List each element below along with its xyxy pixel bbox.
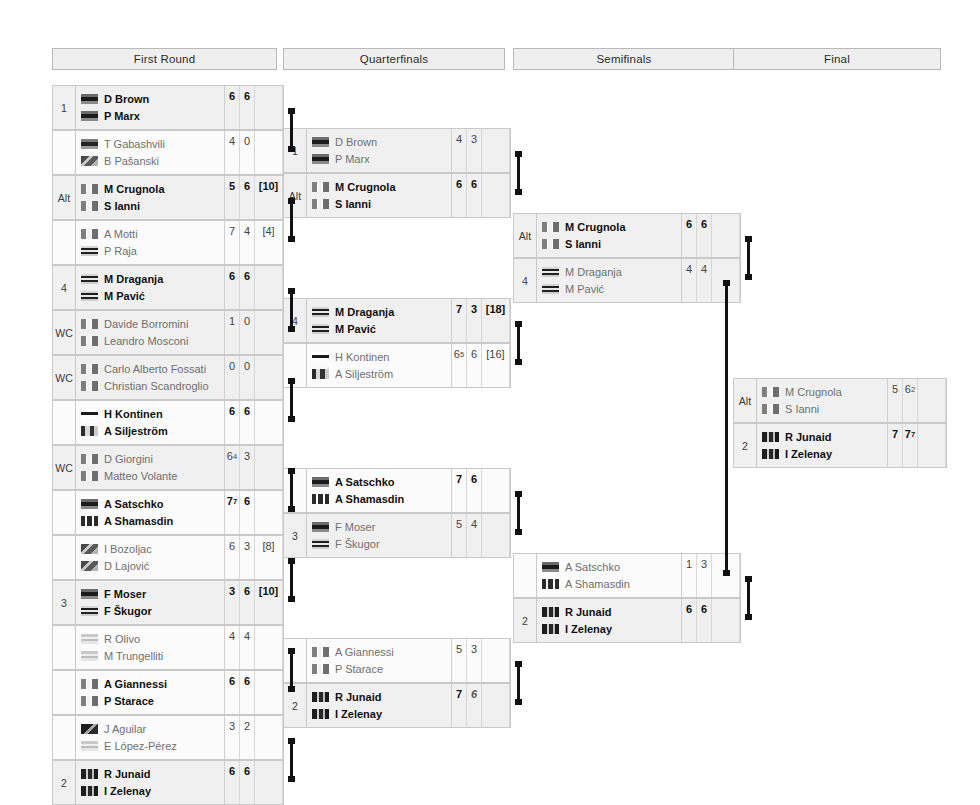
score-spacer <box>482 366 509 388</box>
flag-icon-flag-bars <box>542 267 559 277</box>
score-column-1: 4 <box>225 131 240 174</box>
match-r1-14[interactable]: A GiannessiP Starace66 <box>52 670 284 715</box>
score-column-2: 4 <box>240 626 255 669</box>
seed-label <box>53 491 76 534</box>
player-name: S Ianni <box>104 198 140 215</box>
score-column-2: 6 <box>467 174 482 217</box>
score-value: 77 <box>225 491 239 513</box>
score-value <box>255 671 282 693</box>
match-r1-5[interactable]: 4M DraganjaM Pavić66 <box>52 265 284 310</box>
score-column-3: [10] <box>255 176 283 219</box>
score-column-1: 6 <box>225 536 240 579</box>
player-row: M Crugnola <box>762 384 887 401</box>
match-sf-3[interactable]: A SatschkoA Shamasdin13 <box>513 553 741 598</box>
score-value: 6 <box>225 266 239 288</box>
connector-r1-1-cap-top <box>288 108 295 114</box>
match-sf-1[interactable]: AltM CrugnolaS Ianni66 <box>513 213 741 258</box>
player-name: P Raja <box>104 243 137 260</box>
score-spacer <box>255 333 282 355</box>
score-cells: 66 <box>451 174 510 217</box>
match-r1-2[interactable]: T GabashviliB Pašanski40 <box>52 130 284 175</box>
match-r1-13[interactable]: R OlivoM Trungelliti44 <box>52 625 284 670</box>
match-qf-4[interactable]: H KontinenA Siljeström656[16] <box>283 343 511 388</box>
player-name: M Pavić <box>565 281 604 298</box>
score-spacer <box>467 536 481 558</box>
seed-label <box>53 221 76 264</box>
score-value <box>482 469 509 491</box>
match-qf-5[interactable]: A SatschkoA Shamasdin76 <box>283 468 511 513</box>
player-name: M Crugnola <box>104 181 165 198</box>
player-name: I Zelenay <box>785 446 832 463</box>
connector-r1-5-cap-top <box>288 468 295 474</box>
score-column-3 <box>482 514 510 557</box>
player-row: P Marx <box>312 151 451 168</box>
score-cells: 66 <box>224 671 283 714</box>
flag-icon-flag-stripes <box>81 381 98 391</box>
match-r1-10[interactable]: A SatschkoA Shamasdin776 <box>52 490 284 535</box>
player-row: R Junaid <box>312 689 451 706</box>
match-r1-15[interactable]: J AguilarE López-Pérez32 <box>52 715 284 760</box>
score-column-2: 6 <box>697 599 712 642</box>
match-r1-16[interactable]: 2R JunaidI Zelenay66 <box>52 760 284 805</box>
seed-label: 2 <box>734 424 757 467</box>
score-spacer <box>240 198 254 220</box>
player-row: Christian Scandroglio <box>81 378 224 395</box>
score-spacer <box>452 661 466 683</box>
team-names: A SatschkoA Shamasdin <box>537 554 681 597</box>
match-qf-6[interactable]: 3F MoserF Škugor54 <box>283 513 511 558</box>
player-row: Davide Borromini <box>81 316 224 333</box>
match-qf-8[interactable]: 2R JunaidI Zelenay76 <box>283 683 511 728</box>
match-r1-6[interactable]: WCDavide BorrominiLeandro Mosconi10 <box>52 310 284 355</box>
team-names: A MottiP Raja <box>76 221 224 264</box>
round-header-label: Semifinals <box>596 53 651 65</box>
match-r1-12[interactable]: 3F MoserF Škugor36[10] <box>52 580 284 625</box>
match-fn-2[interactable]: 2R JunaidI Zelenay777 <box>733 423 947 468</box>
score-column-1: 4 <box>682 259 697 302</box>
match-r1-9[interactable]: WCD GiorginiMatteo Volante643 <box>52 445 284 490</box>
score-spacer <box>255 783 282 805</box>
score-value: 4 <box>240 221 254 243</box>
match-qf-7[interactable]: A GiannessiP Starace53 <box>283 638 511 683</box>
connector-r1-8-cap-top <box>288 738 295 744</box>
player-row: T Gabashvili <box>81 136 224 153</box>
score-column-1: 6 <box>225 761 240 804</box>
match-r1-8[interactable]: H KontinenA Siljeström66 <box>52 400 284 445</box>
score-spacer <box>255 558 282 580</box>
score-column-1: 7 <box>452 684 467 727</box>
connector-r1-1-cap-bottom <box>288 146 295 152</box>
seed-label: 2 <box>514 599 537 642</box>
score-value: 6 <box>452 174 466 196</box>
match-r1-3[interactable]: AltM CrugnolaS Ianni56[10] <box>52 175 284 220</box>
player-row: D Brown <box>81 91 224 108</box>
match-qf-1[interactable]: 1D BrownP Marx43 <box>283 128 511 173</box>
player-name: M Trungelliti <box>104 648 163 665</box>
score-cells: 00 <box>224 356 283 399</box>
match-sf-4[interactable]: 2R JunaidI Zelenay66 <box>513 598 741 643</box>
score-spacer <box>240 333 254 355</box>
match-fn-1[interactable]: AltM CrugnolaS Ianni562 <box>733 378 947 423</box>
score-column-2: 3 <box>467 299 482 342</box>
match-qf-3[interactable]: 4M DraganjaM Pavić73[18] <box>283 298 511 343</box>
score-spacer <box>903 446 917 468</box>
score-value: 4 <box>682 259 696 281</box>
seed-label: Alt <box>514 214 537 257</box>
player-row: P Raja <box>81 243 224 260</box>
team-names: M CrugnolaS Ianni <box>76 176 224 219</box>
score-spacer <box>255 738 282 760</box>
team-names: R JunaidI Zelenay <box>537 599 681 642</box>
player-row: E López-Pérez <box>81 738 224 755</box>
score-column-3 <box>482 129 510 172</box>
player-row: I Zelenay <box>81 783 224 800</box>
match-r1-11[interactable]: I BozoljacD Lajović63[8] <box>52 535 284 580</box>
match-r1-7[interactable]: WCCarlo Alberto FossatiChristian Scandro… <box>52 355 284 400</box>
player-name: A Motti <box>104 226 138 243</box>
score-spacer <box>482 196 509 218</box>
flag-icon-flag-bars <box>81 274 98 284</box>
match-r1-4[interactable]: A MottiP Raja74[4] <box>52 220 284 265</box>
score-value: 6 <box>467 344 481 366</box>
match-qf-2[interactable]: AltM CrugnolaS Ianni66 <box>283 173 511 218</box>
score-value <box>255 401 282 423</box>
match-sf-2[interactable]: 4M DraganjaM Pavić44 <box>513 258 741 303</box>
player-name: A Giannessi <box>104 676 167 693</box>
match-r1-1[interactable]: 1D BrownP Marx66 <box>52 85 284 130</box>
